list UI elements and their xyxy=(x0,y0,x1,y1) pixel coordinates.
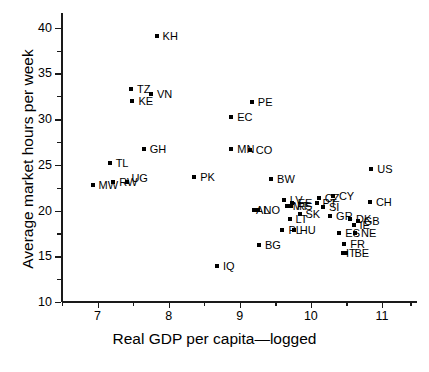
data-point-label: UG xyxy=(131,172,148,184)
data-point-label: BE xyxy=(354,247,369,259)
data-point-label: TL xyxy=(116,157,129,169)
data-point-label: BW xyxy=(277,173,295,185)
data-point-marker xyxy=(353,231,357,235)
data-point-marker xyxy=(328,214,332,218)
data-point-marker xyxy=(280,228,284,232)
data-point-marker xyxy=(289,204,293,208)
data-point-marker xyxy=(257,243,261,247)
data-point-marker xyxy=(344,251,348,255)
data-point-marker xyxy=(337,231,341,235)
data-point-marker xyxy=(269,177,273,181)
data-point-marker xyxy=(369,167,373,171)
data-point-label: KE xyxy=(138,95,153,107)
data-point-label: PK xyxy=(200,171,215,183)
data-point-label: PE xyxy=(258,96,273,108)
data-point-label: BG xyxy=(265,239,281,251)
data-point-label: NO xyxy=(264,204,281,216)
data-point-label: VN xyxy=(157,88,172,100)
data-point-label: NE xyxy=(361,227,376,239)
data-point-label: US xyxy=(377,163,392,175)
data-point-marker xyxy=(125,180,129,184)
data-point-marker xyxy=(248,148,252,152)
data-point-marker xyxy=(282,198,286,202)
scatter-plot-figure: 789101110152025303540 KHTZVNKEPEECGHMNCO… xyxy=(0,0,429,372)
data-point-label: CH xyxy=(376,196,392,208)
data-points-layer: KHTZVNKEPEECGHMNCOTLUSPKBWRWUGMWCYCZLVCH… xyxy=(0,0,429,372)
data-point-marker xyxy=(317,196,321,200)
data-point-marker xyxy=(288,217,292,221)
data-point-label: IQ xyxy=(223,260,235,272)
data-point-marker xyxy=(215,264,219,268)
data-point-marker xyxy=(315,201,319,205)
data-point-label: SK xyxy=(306,208,321,220)
data-point-marker xyxy=(229,147,233,151)
x-axis-title: Real GDP per capita—logged xyxy=(0,330,429,348)
data-point-label: MW xyxy=(99,179,119,191)
data-point-label: EC xyxy=(237,111,252,123)
data-point-label: KH xyxy=(163,30,178,42)
data-point-label: HU xyxy=(300,224,316,236)
data-point-marker xyxy=(155,34,159,38)
data-point-marker xyxy=(91,183,95,187)
data-point-label: CO xyxy=(256,144,273,156)
data-point-marker xyxy=(108,161,112,165)
data-point-label: CY xyxy=(339,190,354,202)
y-axis-title: Average market hours per week xyxy=(19,9,37,309)
data-point-marker xyxy=(292,228,296,232)
data-point-marker xyxy=(229,115,233,119)
data-point-marker xyxy=(321,205,325,209)
data-point-marker xyxy=(129,87,133,91)
data-point-marker xyxy=(348,217,352,221)
data-point-marker xyxy=(368,200,372,204)
data-point-marker xyxy=(256,208,260,212)
data-point-label: MN xyxy=(237,143,254,155)
data-point-marker xyxy=(192,175,196,179)
data-point-marker xyxy=(142,147,146,151)
data-point-label: GH xyxy=(150,143,167,155)
data-point-marker xyxy=(130,99,134,103)
data-point-marker xyxy=(250,100,254,104)
